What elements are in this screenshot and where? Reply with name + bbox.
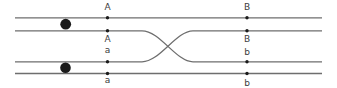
locus-label: b: [244, 78, 250, 88]
locus-label: A: [104, 2, 111, 12]
locus-label: b: [244, 47, 250, 57]
crossover-diagram: ABABabab: [0, 0, 337, 88]
locus-label: a: [105, 45, 111, 55]
locus-label: B: [244, 34, 250, 44]
locus-dot: [245, 29, 248, 32]
locus-dot: [106, 60, 109, 63]
centromere-circle: [60, 63, 71, 74]
locus-dot: [106, 16, 109, 19]
locus-label: B: [244, 2, 250, 12]
locus-label: a: [105, 75, 111, 85]
diagram-canvas: ABABabab: [0, 0, 337, 88]
locus-label: A: [104, 34, 111, 44]
bottom-inner-chromatid: [15, 31, 322, 62]
locus-dot: [245, 16, 248, 19]
locus-dot: [245, 60, 248, 63]
locus-dot: [106, 29, 109, 32]
centromere-circle: [60, 19, 71, 30]
locus-dot: [245, 72, 248, 75]
